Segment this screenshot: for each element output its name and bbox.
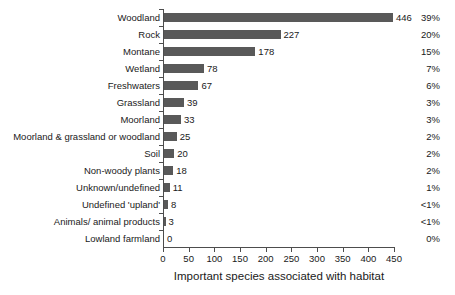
x-axis-line xyxy=(163,247,395,248)
bar-row: Wetland787% xyxy=(0,60,455,77)
percent-label: <1% xyxy=(398,196,440,213)
bar-track: 39 xyxy=(164,94,395,111)
bar xyxy=(164,132,177,141)
x-axis-tick xyxy=(163,248,164,252)
category-label: Lowland farmland xyxy=(0,230,160,247)
category-label: Moorland xyxy=(0,111,160,128)
bar xyxy=(164,183,170,192)
bar-track: 446 xyxy=(164,9,395,26)
category-label: Soil xyxy=(0,145,160,162)
category-label: Woodland xyxy=(0,9,160,26)
y-axis-tick xyxy=(159,145,163,146)
percent-label: 0% xyxy=(398,230,440,247)
bar xyxy=(164,149,174,158)
y-axis-tick xyxy=(159,162,163,163)
bar-row: Woodland44639% xyxy=(0,9,455,26)
x-axis-tick xyxy=(343,248,344,252)
percent-label: 3% xyxy=(398,111,440,128)
bar-track: 33 xyxy=(164,111,395,128)
x-axis-tick xyxy=(368,248,369,252)
category-label: Freshwaters xyxy=(0,77,160,94)
category-label: Animals/ animal products xyxy=(0,213,160,230)
bar-value-label: 178 xyxy=(258,43,274,60)
bar xyxy=(164,166,173,175)
bar-value-label: 0 xyxy=(167,230,172,247)
bar-track: 18 xyxy=(164,162,395,179)
bar-value-label: 78 xyxy=(207,60,218,77)
y-axis-tick xyxy=(159,43,163,44)
y-axis-tick xyxy=(159,196,163,197)
bar-value-label: 39 xyxy=(187,94,198,111)
bar-track: 67 xyxy=(164,77,395,94)
y-axis-tick xyxy=(159,94,163,95)
bar-row: Non-woody plants182% xyxy=(0,162,455,179)
y-axis-line xyxy=(163,9,164,248)
bar-value-label: 20 xyxy=(177,145,188,162)
bar-track: 178 xyxy=(164,43,395,60)
y-axis-tick xyxy=(159,9,163,10)
bar-row: Rock22720% xyxy=(0,26,455,43)
percent-label: 1% xyxy=(398,179,440,196)
percent-label: 2% xyxy=(398,128,440,145)
percent-label: 15% xyxy=(398,43,440,60)
bar xyxy=(164,64,204,73)
y-axis-tick xyxy=(159,179,163,180)
x-axis-tick xyxy=(266,248,267,252)
bar xyxy=(164,98,184,107)
percent-label: 2% xyxy=(398,145,440,162)
category-label: Rock xyxy=(0,26,160,43)
bar-row: Grassland393% xyxy=(0,94,455,111)
plot-area: Woodland44639%Rock22720%Montane17815%Wet… xyxy=(0,9,455,247)
bar-value-label: 33 xyxy=(184,111,195,128)
bar-track: 3 xyxy=(164,213,395,230)
category-label: Montane xyxy=(0,43,160,60)
bar-value-label: 3 xyxy=(169,213,174,230)
bar-track: 20 xyxy=(164,145,395,162)
bar-row: Moorland333% xyxy=(0,111,455,128)
category-label: Wetland xyxy=(0,60,160,77)
x-axis-tick-label: 450 xyxy=(374,253,414,265)
x-axis-tick xyxy=(214,248,215,252)
bar-row: Unknown/undefined111% xyxy=(0,179,455,196)
bar-track: 0 xyxy=(164,230,395,247)
y-axis-tick xyxy=(159,26,163,27)
percent-label: 7% xyxy=(398,60,440,77)
x-axis-tick xyxy=(189,248,190,252)
x-axis-tick xyxy=(317,248,318,252)
category-label: Unknown/undefined xyxy=(0,179,160,196)
bar xyxy=(164,47,255,56)
bar-row: Soil202% xyxy=(0,145,455,162)
y-axis-tick xyxy=(159,213,163,214)
y-axis-tick xyxy=(159,111,163,112)
category-label: Grassland xyxy=(0,94,160,111)
bar-track: 78 xyxy=(164,60,395,77)
bar xyxy=(164,13,393,22)
bar xyxy=(164,200,168,209)
percent-label: 20% xyxy=(398,26,440,43)
bar xyxy=(164,81,198,90)
bar-row: Freshwaters676% xyxy=(0,77,455,94)
category-label: Undefined 'upland' xyxy=(0,196,160,213)
category-label: Non-woody plants xyxy=(0,162,160,179)
bar-value-label: 18 xyxy=(176,162,187,179)
bar-chart: Woodland44639%Rock22720%Montane17815%Wet… xyxy=(0,0,455,295)
bar-value-label: 227 xyxy=(284,26,300,43)
percent-label: 39% xyxy=(398,9,440,26)
x-axis-tick xyxy=(240,248,241,252)
x-axis-tick xyxy=(394,248,395,252)
bar xyxy=(164,217,166,226)
percent-label: <1% xyxy=(398,213,440,230)
y-axis-tick xyxy=(159,77,163,78)
bar-track: 227 xyxy=(164,26,395,43)
bar-value-label: 11 xyxy=(173,179,183,196)
bar-row: Moorland & grassland or woodland252% xyxy=(0,128,455,145)
percent-label: 3% xyxy=(398,94,440,111)
bar-row: Montane17815% xyxy=(0,43,455,60)
bar-value-label: 67 xyxy=(201,77,212,94)
bar-row: Animals/ animal products3<1% xyxy=(0,213,455,230)
x-axis-title: Important species associated with habita… xyxy=(163,269,395,283)
bar xyxy=(164,115,181,124)
bar-track: 8 xyxy=(164,196,395,213)
y-axis-tick xyxy=(159,60,163,61)
category-label: Moorland & grassland or woodland xyxy=(0,128,160,145)
